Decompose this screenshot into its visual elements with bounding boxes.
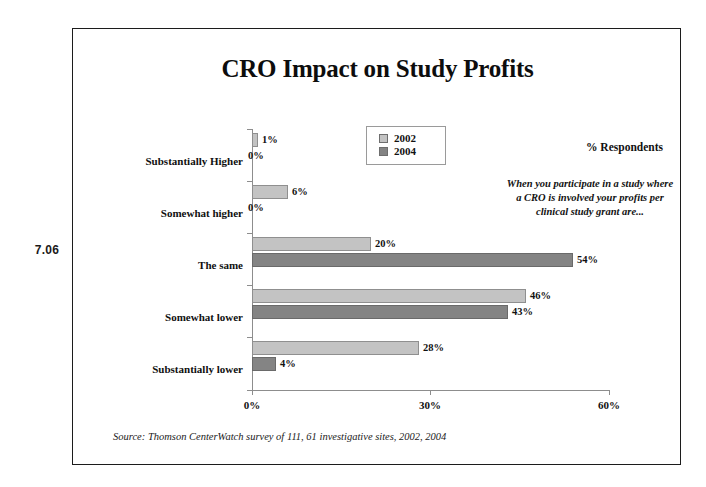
bar-value-2002: 46% — [530, 291, 551, 302]
bar-2004[interactable] — [252, 305, 508, 319]
value-tick — [609, 390, 610, 395]
source-note: Source: Thomson CenterWatch survey of 11… — [113, 431, 446, 442]
value-tick — [252, 390, 253, 395]
category-label: Somewhat higher — [161, 208, 243, 219]
plot-area: Substantially Higher 1% 0% Somewhat high… — [73, 29, 682, 466]
value-tick — [430, 390, 431, 395]
bar-value-2004: 4% — [280, 359, 296, 370]
category-label: Somewhat lower — [165, 312, 243, 323]
x-tick-label-2: 60% — [598, 399, 620, 411]
bar-2002[interactable] — [252, 289, 526, 303]
category-tick — [247, 233, 252, 234]
category-label: Substantially Higher — [146, 156, 244, 167]
category-label: Substantially lower — [152, 364, 243, 375]
bar-2002[interactable] — [252, 237, 371, 251]
x-tick-label-0: 0% — [244, 399, 261, 411]
chart-frame: CRO Impact on Study Profits % Respondent… — [72, 28, 681, 465]
category-tick — [247, 129, 252, 130]
bar-value-2004: 0% — [248, 151, 264, 162]
bar-2004[interactable] — [252, 357, 276, 371]
category-tick — [247, 181, 252, 182]
category-label: The same — [198, 260, 243, 271]
bar-2002[interactable] — [252, 185, 288, 199]
bar-value-2002: 28% — [423, 343, 444, 354]
bar-2002[interactable] — [252, 341, 419, 355]
bar-value-2004: 43% — [512, 307, 533, 318]
category-tick — [247, 337, 252, 338]
figure-number: 7.06 — [22, 243, 72, 257]
category-tick — [247, 285, 252, 286]
value-axis-line — [252, 390, 610, 391]
bar-2004[interactable] — [252, 253, 573, 267]
bar-value-2002: 20% — [375, 239, 396, 250]
bar-value-2002: 6% — [292, 187, 308, 198]
bar-2002[interactable] — [252, 133, 258, 147]
bar-value-2002: 1% — [262, 135, 278, 146]
bar-value-2004: 54% — [577, 255, 598, 266]
bar-value-2004: 0% — [248, 203, 264, 214]
x-tick-label-1: 30% — [419, 399, 441, 411]
